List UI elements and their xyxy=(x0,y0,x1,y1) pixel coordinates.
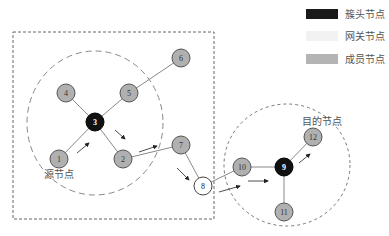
legend: 簇头节点 网关节点 成员节点 xyxy=(306,8,385,65)
node-5: 5 xyxy=(120,84,138,102)
node-4: 4 xyxy=(57,84,75,102)
source-node-label: 源节点 xyxy=(44,168,74,180)
legend-swatch-member xyxy=(306,54,338,64)
node-3: 3 xyxy=(86,113,104,131)
route-arrow xyxy=(177,168,189,180)
node-label: 6 xyxy=(179,54,183,63)
node-label: 11 xyxy=(280,208,288,217)
node-6: 6 xyxy=(172,49,190,67)
node-7: 7 xyxy=(172,136,190,154)
node-label: 4 xyxy=(64,89,68,98)
legend-label-gateway: 网关节点 xyxy=(345,30,385,42)
legend-swatch-gateway xyxy=(306,31,338,41)
node-label: 9 xyxy=(282,163,286,172)
legend-swatch-cluster-head xyxy=(306,9,338,19)
node-label: 2 xyxy=(121,155,125,164)
node-2: 2 xyxy=(114,150,132,168)
node-10: 10 xyxy=(233,158,251,176)
route-arrow xyxy=(77,143,89,153)
node-9: 9 xyxy=(275,158,293,176)
node-label: 10 xyxy=(238,163,246,172)
node-11: 11 xyxy=(275,203,293,221)
node-label: 5 xyxy=(127,89,131,98)
node-label: 8 xyxy=(201,182,205,191)
node-8: 8 xyxy=(194,177,212,195)
route-arrow xyxy=(115,130,125,139)
node-1: 1 xyxy=(50,150,68,168)
cluster-routing-diagram: 簇头节点 网关节点 成员节点 123456789101112 源节点 目的节点 xyxy=(0,0,389,236)
node-label: 1 xyxy=(57,155,61,164)
node-12: 12 xyxy=(304,128,322,146)
route-arrow xyxy=(299,154,310,163)
node-label: 7 xyxy=(179,141,183,150)
destination-node-label: 目的节点 xyxy=(302,115,342,127)
legend-label-member: 成员节点 xyxy=(345,54,385,65)
legend-label-cluster-head: 簇头节点 xyxy=(345,8,385,20)
edges xyxy=(59,58,313,212)
route-arrows xyxy=(77,130,310,192)
node-label: 12 xyxy=(309,133,317,142)
route-arrow xyxy=(219,186,240,192)
node-label: 3 xyxy=(93,118,97,127)
